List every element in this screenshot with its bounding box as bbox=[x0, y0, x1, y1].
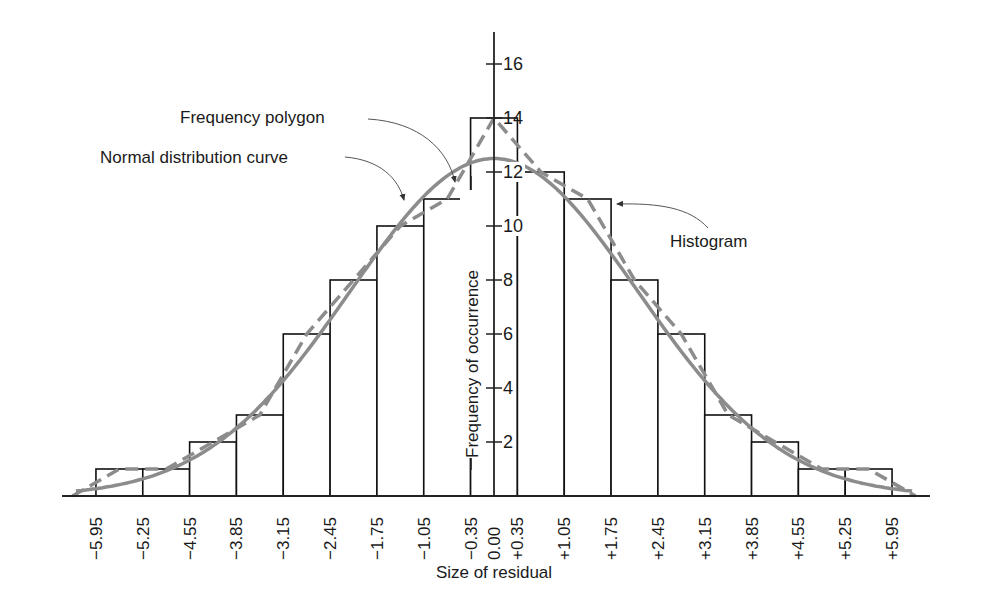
y-tick-label: 2 bbox=[503, 432, 513, 452]
histogram-chart: 246810121416 −5.95−5.25−4.55−3.85−3.15−2… bbox=[0, 0, 987, 615]
x-tick-label: +0.35 bbox=[508, 517, 527, 560]
histogram-bar bbox=[798, 469, 845, 496]
x-tick-label: +2.45 bbox=[649, 517, 668, 560]
y-tick-label: 8 bbox=[503, 270, 513, 290]
histogram-bar bbox=[236, 415, 283, 496]
y-tick-label: 16 bbox=[503, 54, 523, 74]
x-tick-label: −3.15 bbox=[274, 517, 293, 560]
annotation-normal-curve: Normal distribution curve bbox=[100, 148, 404, 200]
x-tick-label: +1.75 bbox=[602, 517, 621, 560]
x-tick-label: +3.15 bbox=[696, 517, 715, 560]
x-tick-label: −4.55 bbox=[181, 517, 200, 560]
histogram-bar bbox=[377, 226, 424, 496]
annotation-normal-curve-label: Normal distribution curve bbox=[100, 148, 288, 167]
annotation-frequency-polygon-label: Frequency polygon bbox=[180, 108, 325, 127]
x-tick-label: +4.55 bbox=[789, 517, 808, 560]
annotation-frequency-polygon: Frequency polygon bbox=[180, 108, 455, 182]
x-tick-label: +1.05 bbox=[555, 517, 574, 560]
y-tick-label: 12 bbox=[503, 162, 523, 182]
x-tick-label: −5.25 bbox=[134, 517, 153, 560]
histogram-bar bbox=[658, 334, 705, 496]
histogram-bar bbox=[143, 469, 190, 496]
y-tick-label: 6 bbox=[503, 324, 513, 344]
y-axis-label-group: Frequency of occurrence bbox=[460, 176, 482, 470]
annotation-histogram-label: Histogram bbox=[670, 232, 747, 251]
x-tick-label: −2.45 bbox=[321, 517, 340, 560]
y-tick-label: 14 bbox=[503, 108, 523, 128]
x-tick-label: +5.25 bbox=[836, 517, 855, 560]
histogram-bar bbox=[190, 442, 237, 496]
x-tick-label: −0.35 bbox=[462, 517, 481, 560]
x-tick-label: +5.95 bbox=[883, 517, 902, 560]
x-axis-ticks: −5.95−5.25−4.55−3.85−3.15−2.45−1.75−1.05… bbox=[87, 517, 902, 560]
y-tick-label: 4 bbox=[503, 378, 513, 398]
histogram-bar bbox=[705, 415, 752, 496]
annotation-arrow bbox=[368, 119, 455, 182]
x-tick-label: −1.75 bbox=[368, 517, 387, 560]
x-tick-label: 0.00 bbox=[485, 527, 504, 560]
y-tick-label: 10 bbox=[503, 216, 523, 236]
x-tick-label: +3.85 bbox=[743, 517, 762, 560]
histogram-bar bbox=[283, 334, 330, 496]
annotation-histogram: Histogram bbox=[617, 204, 747, 251]
x-tick-label: −3.85 bbox=[227, 517, 246, 560]
annotation-arrow bbox=[617, 204, 708, 228]
annotation-arrow bbox=[345, 157, 404, 200]
x-axis-label: Size of residual bbox=[436, 563, 552, 582]
x-tick-label: −1.05 bbox=[415, 517, 434, 560]
y-axis-label: Frequency of occurrence bbox=[463, 270, 482, 458]
x-tick-label: −5.95 bbox=[87, 517, 106, 560]
